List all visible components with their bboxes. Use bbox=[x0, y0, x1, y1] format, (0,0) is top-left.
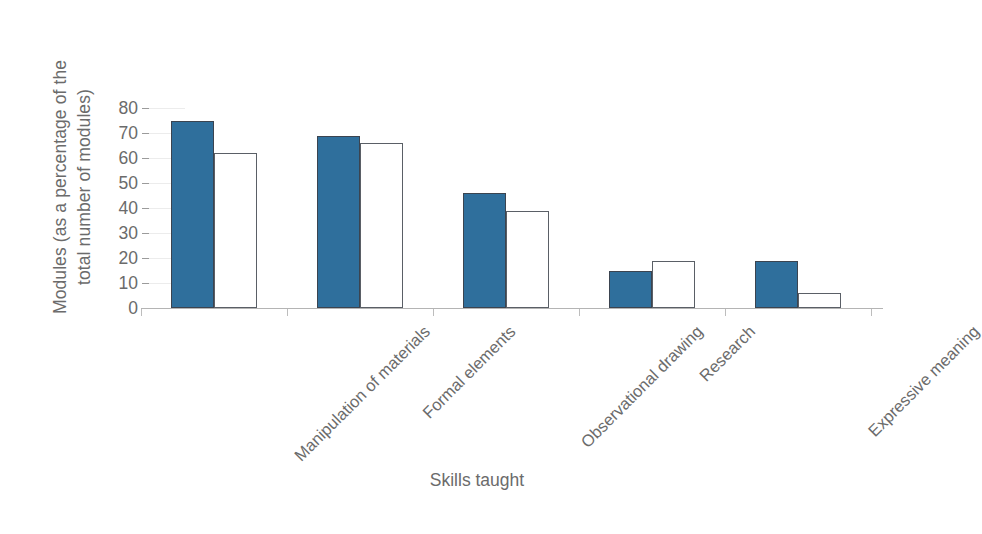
bar-series2 bbox=[360, 143, 403, 308]
bar-series2 bbox=[652, 261, 695, 309]
x-axis-category-label: Formal elements bbox=[419, 322, 519, 422]
y-axis-tick-mark bbox=[142, 108, 149, 109]
y-axis-title-line-1: Modules (as a percentage of the bbox=[50, 60, 70, 314]
y-axis-tick-mark bbox=[142, 183, 149, 184]
y-axis-title: Modules (as a percentage of thetotal num… bbox=[48, 22, 96, 352]
x-axis-category-label: Manipulation of materials bbox=[290, 322, 432, 464]
y-axis-tick-label: 10 bbox=[119, 274, 138, 292]
y-axis-tick-label: 60 bbox=[119, 149, 138, 167]
x-axis-tick-mark bbox=[579, 309, 580, 316]
y-axis-tick-labels: 01020304050607080 bbox=[96, 103, 138, 309]
x-axis-category-label: Observational drawing bbox=[577, 322, 706, 451]
plot-area bbox=[149, 108, 879, 308]
y-axis-tick-mark bbox=[142, 233, 149, 234]
y-axis-tick-label: 80 bbox=[119, 99, 138, 117]
x-axis-tick-mark bbox=[871, 309, 872, 316]
y-axis-tick-mark bbox=[142, 258, 149, 259]
x-axis-tick-mark bbox=[725, 309, 726, 316]
x-axis-category-label: Research bbox=[695, 322, 758, 385]
y-axis-tick-label: 40 bbox=[119, 199, 138, 217]
y-axis-tick-mark bbox=[142, 133, 149, 134]
bar-series1 bbox=[463, 193, 506, 308]
y-axis-tick-label: 20 bbox=[119, 249, 138, 267]
x-axis-tick-mark bbox=[287, 309, 288, 316]
y-axis-tick-label: 30 bbox=[119, 224, 138, 242]
x-axis-title: Skills taught bbox=[0, 470, 910, 491]
y-axis-tick-label: 70 bbox=[119, 124, 138, 142]
y-axis-tick-mark bbox=[142, 158, 149, 159]
bar-series1 bbox=[171, 121, 214, 309]
y-axis-tick-mark bbox=[142, 283, 149, 284]
x-axis-title-text: Skills taught bbox=[430, 470, 524, 490]
y-axis-tick-mark bbox=[142, 208, 149, 209]
bar-series2 bbox=[798, 293, 841, 308]
x-axis-tick-mark bbox=[433, 309, 434, 316]
bar-series2 bbox=[214, 153, 257, 308]
bar-series1 bbox=[609, 271, 652, 309]
bar-series1 bbox=[317, 136, 360, 309]
y-axis-title-line-2: total number of modules) bbox=[74, 89, 94, 285]
x-axis-category-label: Expressive meaning bbox=[864, 322, 982, 440]
y-axis-tick-label: 0 bbox=[128, 299, 138, 317]
x-axis-line bbox=[141, 308, 883, 309]
bar-series1 bbox=[755, 261, 798, 309]
x-axis-tick-mark bbox=[141, 309, 142, 316]
y-axis-tick-label: 50 bbox=[119, 174, 138, 192]
bar-series2 bbox=[506, 211, 549, 309]
